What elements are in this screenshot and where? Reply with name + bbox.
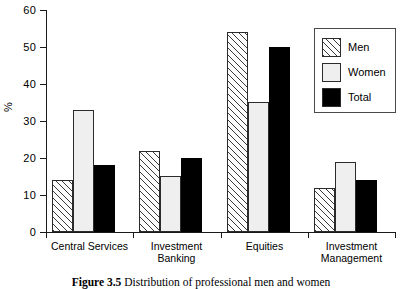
y-tick-label: 50	[6, 42, 36, 53]
x-category-label: Central Services	[46, 240, 133, 252]
x-category-label: Investment Management	[308, 240, 395, 264]
x-tick-mark	[395, 232, 396, 238]
x-tick-mark	[221, 232, 222, 238]
figure-caption: Figure 3.5 Distribution of professional …	[0, 276, 402, 289]
bar	[314, 188, 335, 232]
y-tick-label: 60	[6, 5, 36, 16]
bar	[269, 47, 290, 232]
chart-legend: Men Women Total	[314, 28, 396, 113]
y-tick-label: 20	[6, 153, 36, 164]
y-tick-label: 0	[6, 227, 36, 238]
light-swatch-icon	[322, 63, 341, 82]
bar	[160, 176, 181, 232]
hatched-swatch-icon	[322, 38, 341, 57]
y-tick-label: 10	[6, 190, 36, 201]
bar	[181, 158, 202, 232]
y-tick-label: 40	[6, 79, 36, 90]
bar	[248, 102, 269, 232]
legend-entry-total: Total	[322, 85, 395, 109]
bar	[335, 162, 356, 232]
legend-label-men: Men	[348, 41, 369, 53]
black-swatch-icon	[322, 88, 341, 107]
bar	[356, 180, 377, 232]
x-tick-mark	[308, 232, 309, 238]
y-axis-title: %	[2, 102, 14, 112]
bar	[52, 180, 73, 232]
x-tick-mark	[46, 232, 47, 238]
legend-label-total: Total	[348, 91, 371, 103]
bar	[139, 151, 160, 232]
figure-caption-label: Figure 3.5	[72, 276, 122, 288]
x-category-label: Investment Banking	[133, 240, 220, 264]
legend-label-women: Women	[348, 66, 386, 78]
x-category-label: Equities	[221, 240, 308, 252]
bar	[73, 110, 94, 232]
y-tick-label: 30	[6, 116, 36, 127]
bar	[94, 165, 115, 232]
legend-entry-women: Women	[322, 60, 395, 84]
legend-entry-men: Men	[322, 35, 395, 59]
figure-caption-text: Distribution of professional men and wom…	[124, 276, 330, 288]
figure-3-5: % 0102030405060 Central ServicesInvestme…	[0, 0, 402, 289]
bar	[227, 32, 248, 232]
x-tick-mark	[133, 232, 134, 238]
